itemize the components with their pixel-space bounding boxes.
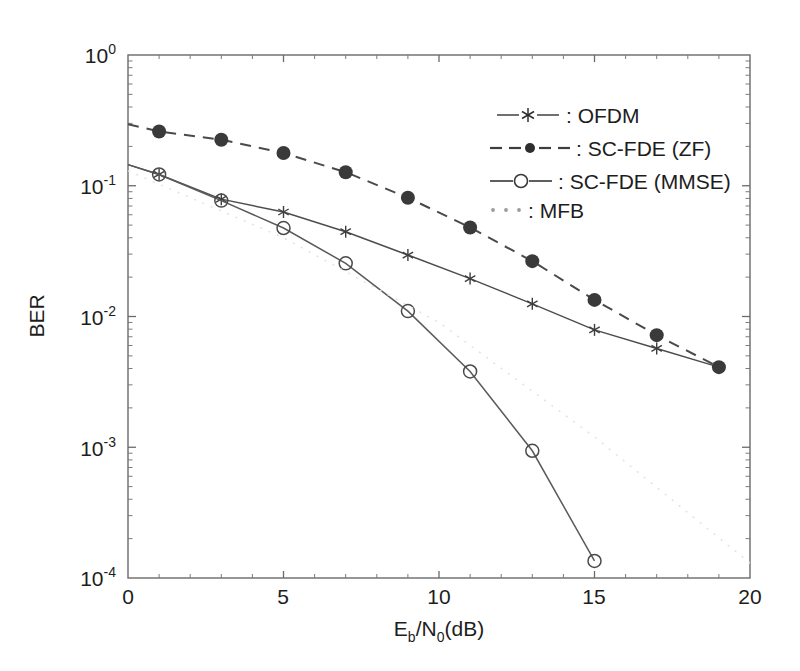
marker-filled-circle xyxy=(339,165,353,179)
y-axis-title: BER xyxy=(25,294,48,337)
x-tick-label-0: 0 xyxy=(122,585,134,608)
marker-filled-circle xyxy=(401,191,415,205)
x-tick-label-15: 15 xyxy=(582,585,605,608)
legend-label-ofdm: : OFDM xyxy=(566,104,640,127)
legend-label-scfde-zf: : SC-FDE (ZF) xyxy=(576,137,711,160)
marker-filled-circle xyxy=(650,328,664,342)
legend-label-mfb: : MFB xyxy=(528,199,584,222)
legend-label-scfde-mmse: : SC-FDE (MMSE) xyxy=(558,170,731,193)
x-tick-label-20: 20 xyxy=(738,585,761,608)
marker-filled-circle xyxy=(277,146,291,160)
marker-filled-circle xyxy=(525,254,539,268)
marker-filled-circle xyxy=(463,220,477,234)
chart-svg: 100 10-1 10-2 10-3 10-4 BER 0 5 10 15 20 xyxy=(0,0,800,671)
marker-filled-circle xyxy=(712,360,726,374)
marker-filled-circle xyxy=(588,293,602,307)
filled-circle-icon xyxy=(525,143,535,153)
x-tick-label-10: 10 xyxy=(427,585,450,608)
marker-filled-circle xyxy=(152,124,166,138)
ber-performance-chart: 100 10-1 10-2 10-3 10-4 BER 0 5 10 15 20 xyxy=(0,0,800,671)
x-tick-label-5: 5 xyxy=(277,585,289,608)
marker-filled-circle xyxy=(214,133,228,147)
chart-background xyxy=(0,0,800,671)
